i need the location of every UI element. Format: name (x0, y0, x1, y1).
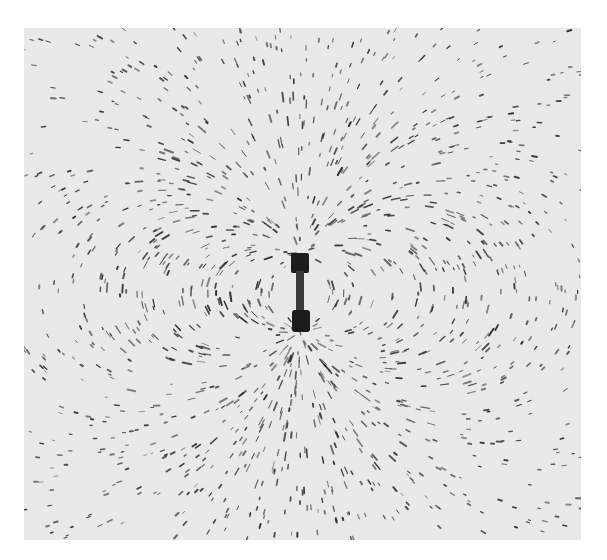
magnetic-field-pattern (24, 28, 581, 540)
iron-filings-photo: Iron filings aligned around a small bar … (24, 28, 581, 540)
